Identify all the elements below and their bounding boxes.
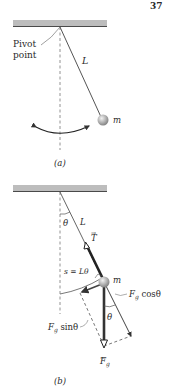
mass-label: m bbox=[113, 115, 121, 125]
arc-length-label: s = Lθ bbox=[64, 267, 89, 276]
swing-arrow-icon bbox=[36, 126, 89, 133]
corner-text: 37 bbox=[150, 1, 163, 11]
tension-vector-arrow-icon: → bbox=[91, 229, 96, 236]
pivot-leader-line bbox=[41, 27, 60, 45]
fg-sin-label: Fg sinθ bbox=[47, 322, 78, 334]
theta-label-bottom: θ bbox=[107, 312, 112, 322]
bob-mass bbox=[99, 277, 110, 288]
fg-cos-leader-line bbox=[115, 294, 127, 296]
ceiling-bar bbox=[13, 185, 107, 191]
panel-a: Pivot point L m (a) bbox=[13, 20, 121, 168]
theta-arc-bottom bbox=[104, 305, 115, 307]
ceiling-bar bbox=[13, 20, 107, 26]
mass-label: m bbox=[113, 275, 121, 285]
caption-b: (b) bbox=[54, 376, 66, 386]
fg-cos-label: Fg cosθ bbox=[128, 289, 161, 301]
dashed-construction-line bbox=[80, 293, 104, 346]
fg-sin-leader-line bbox=[80, 320, 88, 327]
pivot-label-line2: point bbox=[13, 50, 37, 60]
gravity-label: Fg bbox=[99, 356, 110, 368]
fg-cos-component-vector bbox=[104, 282, 131, 336]
length-label: L bbox=[79, 217, 86, 227]
caption-a: (a) bbox=[54, 158, 66, 168]
pendulum-string bbox=[60, 27, 101, 117]
pendulum-diagram: 37 Pivot point L m (a) θ L T → s = Lθ bbox=[0, 0, 169, 390]
theta-arc-top bbox=[60, 212, 70, 214]
panel-b: θ L T → s = Lθ m θ Fg cosθ Fg si bbox=[13, 185, 161, 386]
fg-sin-component-vector bbox=[82, 284, 102, 292]
tension-arrowhead-icon bbox=[84, 242, 90, 249]
theta-label-top: θ bbox=[63, 218, 68, 228]
tension-vector bbox=[87, 246, 103, 279]
pivot-label-line1: Pivot bbox=[13, 39, 36, 49]
dashed-construction-line bbox=[104, 336, 131, 346]
length-label: L bbox=[81, 55, 88, 66]
gravity-arrowhead-icon bbox=[101, 340, 108, 348]
bob-mass bbox=[98, 115, 109, 126]
